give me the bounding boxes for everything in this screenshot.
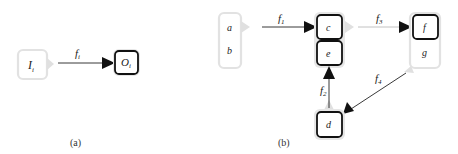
- node-d: d: [314, 109, 345, 140]
- panel-b: a b f1 c e f3: [219, 12, 440, 149]
- caption-a: (a): [70, 137, 81, 149]
- edge-f2-sub: 2: [323, 90, 327, 98]
- svg-text:f1: f1: [278, 12, 285, 26]
- node-group-ab: a b: [219, 13, 250, 68]
- svg-text:f3: f3: [376, 12, 383, 26]
- node-output-sub: i: [129, 62, 131, 70]
- edge-f2: f2: [320, 66, 335, 110]
- svg-text:fi: fi: [75, 47, 80, 61]
- node-input-i: Ii: [18, 50, 54, 79]
- panel-a: Ii fi Oi (a): [18, 47, 140, 149]
- node-group-fg: f g: [404, 13, 440, 73]
- node-e: e: [317, 41, 342, 65]
- edge-f-i: fi: [58, 47, 115, 69]
- edge-f3-sub: 3: [378, 18, 383, 26]
- edge-f1-sub: 1: [281, 18, 285, 26]
- node-a-label: a: [227, 22, 232, 33]
- diagram-canvas: Ii fi Oi (a) a b: [0, 0, 458, 154]
- node-c: c: [317, 15, 342, 39]
- svg-text:f4: f4: [375, 72, 382, 86]
- caption-b: (b): [278, 137, 290, 149]
- edge-f4-sub: 4: [378, 78, 382, 86]
- node-c-label: c: [326, 22, 331, 33]
- svg-text:f2: f2: [320, 84, 327, 98]
- node-input-sub: i: [32, 66, 34, 74]
- edge-f-i-sub: i: [78, 53, 80, 61]
- edge-f4: f4: [343, 72, 406, 114]
- edge-f3: f3: [358, 12, 412, 33]
- node-g-label: g: [422, 47, 427, 58]
- node-e-label: e: [326, 48, 331, 59]
- node-output-o: Oi: [113, 49, 140, 76]
- node-b-label: b: [227, 45, 232, 56]
- edge-f1: f1: [262, 12, 317, 33]
- node-output-label: O: [121, 56, 129, 68]
